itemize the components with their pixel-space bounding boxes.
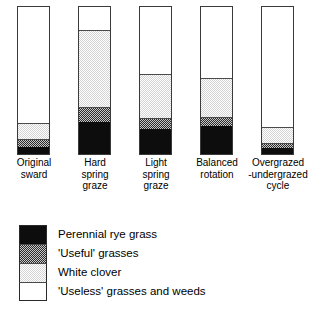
bar-segment-white-clover (262, 127, 293, 142)
bar-segment-useless-grasses-and-weeds (79, 7, 110, 30)
legend-label-useless-grasses-and-weeds: 'Useless' grasses and weeds (58, 285, 206, 298)
legend-item-perennial-rye-grass[interactable]: Perennial rye grass (19, 225, 309, 244)
bar-segment-white-clover (79, 30, 110, 106)
bar-segment-useful-grasses (201, 117, 232, 127)
bar-segment-white-clover (140, 74, 171, 119)
category-axis-labels: Original sward Hard spring graze Light s… (0, 157, 319, 213)
stacked-bar (200, 6, 233, 155)
bar-segment-perennial-rye-grass (140, 129, 171, 154)
stacked-bar (139, 6, 172, 155)
category-label-hard-spring-graze: Hard spring graze (61, 157, 129, 192)
bar-segment-white-clover (18, 123, 49, 138)
bar-segment-perennial-rye-grass (79, 122, 110, 154)
legend-item-white-clover[interactable]: White clover (19, 263, 309, 282)
stacked-bar (17, 6, 50, 155)
legend-swatch-perennial-rye-grass (19, 225, 47, 244)
bar-segment-perennial-rye-grass (18, 147, 49, 154)
bar-segment-useless-grasses-and-weeds (140, 7, 171, 74)
stacked-bar (261, 6, 294, 155)
legend-label-white-clover: White clover (58, 266, 121, 279)
stacked-bar (78, 6, 111, 155)
category-label-original-sward: Original sward (0, 157, 68, 180)
legend-label-perennial-rye-grass: Perennial rye grass (58, 228, 157, 241)
bar-segment-perennial-rye-grass (262, 148, 293, 154)
legend-item-useless-grasses-and-weeds[interactable]: 'Useless' grasses and weeds (19, 282, 309, 301)
category-label-light-spring-graze: Light spring graze (122, 157, 190, 192)
bar-group-light-spring-graze[interactable] (139, 6, 172, 155)
bar-segment-useful-grasses (140, 118, 171, 129)
bar-segment-useless-grasses-and-weeds (201, 7, 232, 78)
legend-item-useful-grasses[interactable]: 'Useful' grasses (19, 244, 309, 263)
legend-swatch-white-clover (19, 263, 47, 282)
legend-swatch-useless-grasses-and-weeds (19, 282, 47, 301)
bar-segment-white-clover (201, 78, 232, 117)
bar-segment-useful-grasses (18, 139, 49, 147)
bar-group-original-sward[interactable] (17, 6, 50, 155)
bar-group-hard-spring-graze[interactable] (78, 6, 111, 155)
chart-plot-area (0, 0, 319, 155)
bar-group-balanced-rotation[interactable] (200, 6, 233, 155)
chart-legend: Perennial rye grass 'Useful' grasses Whi… (19, 225, 309, 301)
bar-segment-useful-grasses (79, 107, 110, 122)
legend-label-useful-grasses: 'Useful' grasses (58, 247, 138, 260)
bar-group-overgrazed-undergrazed-cycle[interactable] (261, 6, 294, 155)
category-label-overgrazed-undergrazed-cycle: Overgrazed -undergrazed cycle (237, 157, 319, 192)
bar-segment-useless-grasses-and-weeds (18, 7, 49, 123)
stacked-bar-chart-figure: Original sward Hard spring graze Light s… (0, 0, 319, 310)
bar-segment-perennial-rye-grass (201, 126, 232, 154)
legend-swatch-useful-grasses (19, 244, 47, 263)
bar-segment-useless-grasses-and-weeds (262, 7, 293, 127)
